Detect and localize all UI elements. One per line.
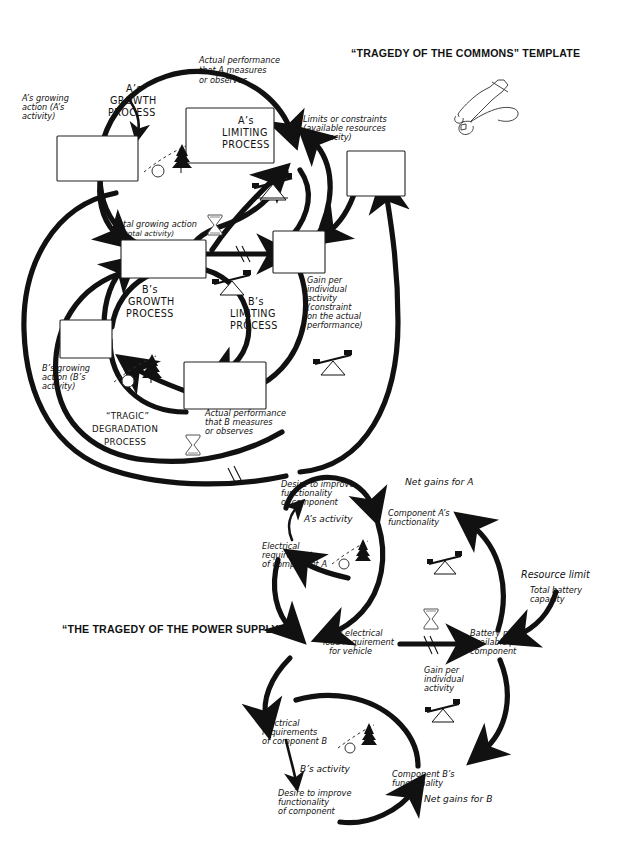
label-component-a-functionality: Component A’s functionality	[388, 508, 450, 527]
svg-text:of component: of component	[281, 497, 339, 507]
snowball-growth-icon-a	[144, 144, 192, 177]
label-electrical-requirements-a: Electrical requirements of component A	[262, 541, 327, 569]
arrow-comp-a-to-total-load	[330, 524, 383, 634]
arrow-load-to-elec-b	[265, 658, 290, 720]
a-growing-action-box	[57, 136, 138, 181]
label-tragic-degradation-process: “TRAGIC” DEGRADATION PROCESS	[92, 411, 158, 447]
hourglass-delay-icon-tragic	[186, 435, 200, 455]
svg-text:component: component	[470, 646, 517, 656]
svg-text:of component B: of component B	[262, 736, 327, 746]
label-a-actual-performance: Actual performance that A measures or ob…	[198, 55, 280, 85]
arrow-to-a-performance	[212, 175, 278, 250]
total-growing-action-box	[121, 240, 206, 278]
label-a-growth-process: A’s GROWTH PROCESS	[108, 83, 157, 118]
hammer-wrench-icon	[455, 80, 518, 135]
diagram-canvas: A’s growing action (A’s activity) A’s GR…	[0, 0, 631, 853]
seesaw-balance-icon-a-bottom	[427, 551, 462, 574]
label-b-limiting-process: B’s LIMITING PROCESS	[230, 296, 278, 331]
svg-text:A’s: A’s	[238, 115, 254, 126]
gain-per-individual-activity-box	[273, 231, 325, 273]
seesaw-balance-icon-b	[313, 350, 352, 375]
svg-text:for vehicle: for vehicle	[329, 646, 372, 656]
svg-text:B’s: B’s	[142, 284, 158, 295]
b-actual-performance-box	[184, 362, 266, 409]
svg-text:activity: activity	[424, 683, 454, 693]
label-limits-or-constraints: Limits or constraints (available resourc…	[303, 114, 387, 142]
svg-text:PROCESS: PROCESS	[230, 320, 278, 331]
label-a-growing-action: A’s growing action (A’s activity)	[21, 93, 69, 121]
label-b-activity: B’s activity	[300, 764, 350, 774]
label-battery-power-available: Battery power available per component	[470, 628, 529, 656]
label-b-growing-action: B’s growing action (B’s activity)	[42, 363, 90, 391]
arrow-elec-b-to-desire	[286, 740, 296, 782]
svg-text:“TRAGIC”: “TRAGIC”	[106, 411, 149, 421]
snowball-growth-icon-b-bottom	[338, 723, 377, 753]
svg-text:GROWTH: GROWTH	[110, 95, 157, 106]
label-component-b-functionality: Component B’s functionality	[392, 769, 455, 788]
svg-text:capacity: capacity	[530, 594, 565, 604]
label-b-actual-performance: Actual performance that B measures or ob…	[204, 408, 286, 436]
label-resource-limit: Resource limit	[521, 569, 591, 580]
svg-text:GROWTH: GROWTH	[128, 296, 175, 307]
label-total-electrical-load: Total electrical load requirement for ve…	[323, 628, 395, 656]
svg-text:PROCESS: PROCESS	[108, 107, 156, 118]
arrow-battery-to-comp-b	[482, 660, 507, 752]
svg-text:PROCESS: PROCESS	[126, 308, 174, 319]
limits-or-constraints-box	[347, 151, 405, 196]
svg-text:Total growing action: Total growing action	[114, 219, 197, 229]
label-total-growing-action: Total growing action (total activity)	[114, 219, 197, 238]
svg-text:Actual performance: Actual performance	[198, 55, 280, 65]
arrow-battery-to-comp-a	[470, 524, 503, 630]
label-gain-per-individual-activity-bottom: Gain per individual activity	[424, 665, 464, 693]
arrow-b-performance-to-action	[132, 366, 188, 392]
svg-text:of component: of component	[278, 806, 336, 816]
svg-text:or observes: or observes	[199, 75, 248, 85]
svg-text:B’s: B’s	[248, 296, 264, 307]
svg-text:or capacity): or capacity)	[303, 132, 352, 142]
arrow-gain-to-a-performance	[310, 138, 330, 226]
hourglass-delay-icon-bottom	[424, 609, 438, 629]
top-title: “TRAGEDY OF THE COMMONS” TEMPLATE	[351, 47, 580, 59]
svg-text:(total activity): (total activity)	[122, 229, 174, 238]
label-gain-per-individual-activity: Gain per individual activity (constraint…	[306, 275, 363, 330]
snowball-growth-icon-a-bottom	[332, 539, 371, 569]
svg-text:A’s: A’s	[126, 83, 142, 94]
label-electrical-requirements-b: Electrical requirements of component B	[262, 718, 327, 746]
svg-text:performance): performance)	[306, 320, 363, 330]
b-growing-action-box	[60, 320, 112, 358]
label-net-gains-b: Net gains for B	[424, 793, 492, 804]
svg-text:that A measures: that A measures	[199, 65, 267, 75]
svg-text:activity): activity)	[22, 111, 55, 121]
a-limiting-right	[292, 170, 308, 236]
label-a-activity: A’s activity	[303, 514, 353, 524]
svg-text:or observes: or observes	[205, 426, 254, 436]
svg-text:PROCESS: PROCESS	[104, 437, 146, 447]
arrow-elec-a-to-load	[274, 560, 292, 630]
svg-text:LIMITING: LIMITING	[222, 127, 268, 138]
bottom-title: “THE TRAGEDY OF THE POWER SUPPLY”	[62, 623, 284, 635]
svg-text:DEGRADATION: DEGRADATION	[92, 424, 158, 434]
svg-text:functionality: functionality	[392, 778, 443, 788]
label-a-desire-improve: Desire to improve functionality of compo…	[281, 479, 354, 507]
arrow-elec-a-to-activity	[289, 506, 298, 540]
svg-text:activity): activity)	[42, 381, 75, 391]
svg-text:LIMITING: LIMITING	[230, 308, 276, 319]
svg-text:of component A: of component A	[262, 559, 327, 569]
seesaw-balance-icon-b-bottom	[425, 699, 460, 722]
svg-text:PROCESS: PROCESS	[222, 139, 270, 150]
label-total-battery-capacity: Total battery capacity	[530, 585, 582, 604]
label-b-desire-improve: Desire to improve functionality of compo…	[278, 788, 351, 816]
label-net-gains-a: Net gains for A	[405, 476, 473, 487]
svg-text:functionality: functionality	[388, 517, 439, 527]
